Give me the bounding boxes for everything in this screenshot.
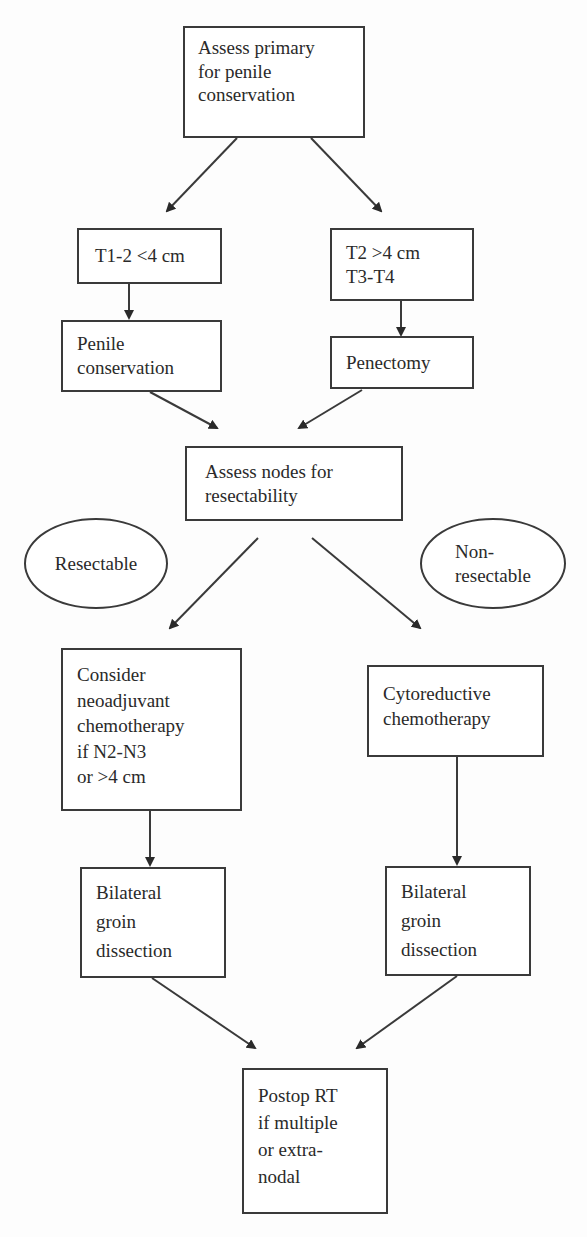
node-penectomy: Penectomy: [330, 336, 474, 389]
node-t2-t3-t4: T2 >4 cm T3-T4: [330, 228, 474, 301]
flowchart-canvas: Assess primary for penile conservation T…: [0, 0, 587, 1237]
label-resectable: Resectable: [24, 518, 168, 609]
arrow-nodes-to-neoadjuvant: [170, 538, 258, 628]
node-neoadjuvant-chemotherapy: Consider neoadjuvant chemotherapy if N2-…: [61, 648, 242, 811]
arrow-right-dissection-to-postop: [357, 976, 457, 1048]
node-t1-2: T1-2 <4 cm: [77, 228, 222, 284]
arrow-left-dissection-to-postop: [152, 978, 255, 1048]
node-bilateral-dissection-left: Bilateral groin dissection: [80, 867, 226, 978]
node-assess-nodes: Assess nodes for resectability: [185, 446, 403, 521]
node-postop-rt: Postop RT if multiple or extra- nodal: [242, 1068, 388, 1214]
arrow-conservation-to-nodes: [150, 392, 217, 428]
node-bilateral-dissection-right: Bilateral groin dissection: [385, 866, 531, 976]
arrow-primary-to-t2: [311, 138, 381, 211]
node-cytoreductive-chemotherapy: Cytoreductive chemotherapy: [367, 665, 544, 757]
node-penile-conservation: Penile conservation: [61, 320, 222, 392]
arrow-nodes-to-cytoreductive: [312, 538, 420, 628]
label-non-resectable: Non- resectable: [420, 518, 566, 609]
arrow-penectomy-to-nodes: [299, 390, 362, 428]
node-assess-primary: Assess primary for penile conservation: [183, 26, 365, 138]
connector-arrows: [0, 0, 587, 1237]
arrow-primary-to-t1: [167, 138, 237, 211]
